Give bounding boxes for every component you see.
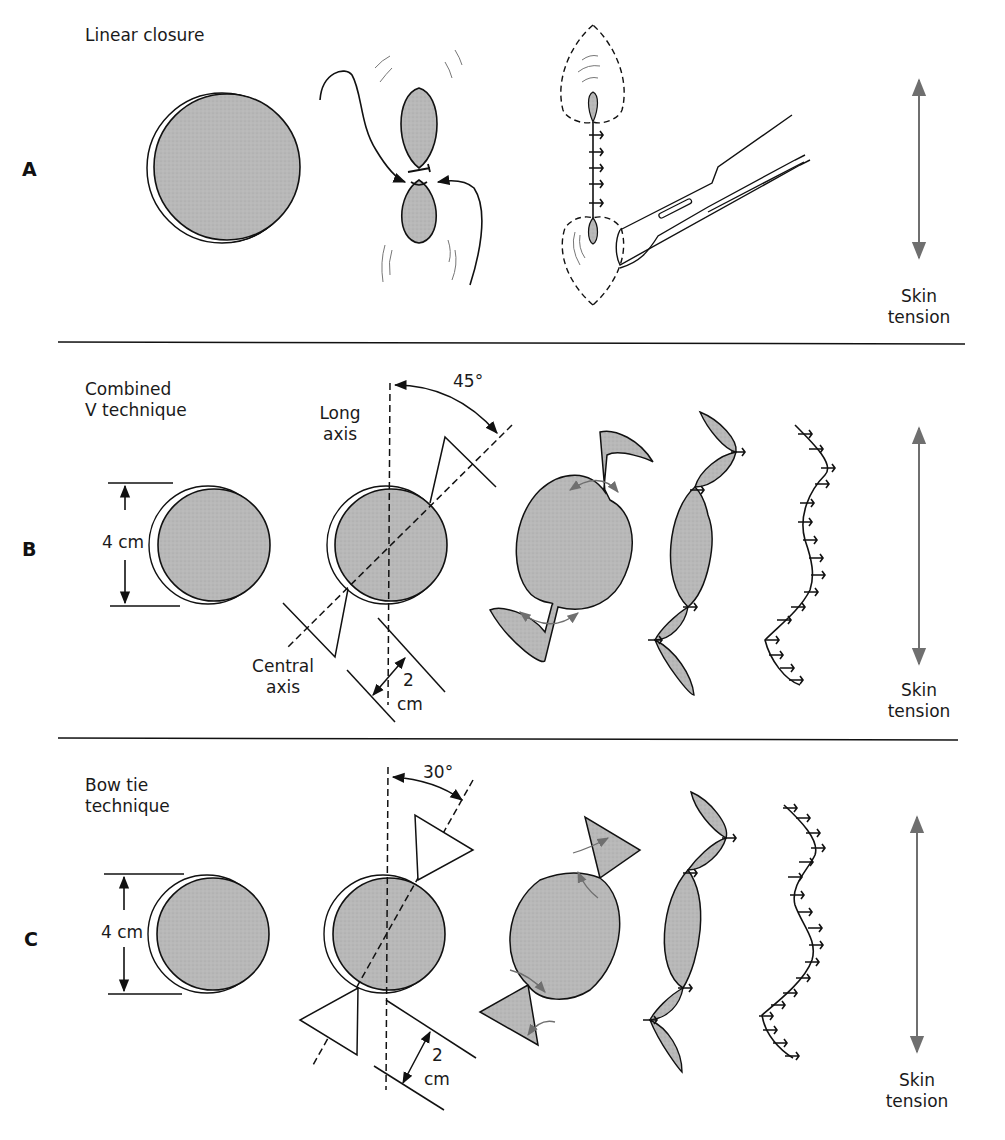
panel-c: [104, 767, 917, 1110]
panel-b-central-axis-label: Central axis: [248, 656, 318, 698]
v-closure-partial-b: [648, 412, 745, 695]
panel-c-offset-value: 2: [432, 1045, 443, 1066]
panel-a-tension-label: Skin tension: [884, 286, 954, 328]
purse-string-lobes: [320, 50, 482, 285]
v-closure-final-b: [765, 425, 835, 685]
surgical-closure-diagram: [0, 0, 1005, 1140]
panel-b-offset-value: 2: [403, 670, 414, 691]
panel-b-offset-unit: cm: [397, 694, 423, 715]
bowtie-closure-partial-c: [643, 792, 736, 1072]
panel-b-angle-label: 45°: [453, 371, 483, 392]
panel-a: [147, 25, 919, 305]
panel-b-title: Combined V technique: [85, 379, 187, 421]
panel-b-diameter-label: 4 cm: [102, 532, 144, 553]
bowtie-flaps-rotating-c: [480, 817, 640, 1045]
panel-c-angle-label: 30°: [423, 762, 453, 783]
linear-closure-sutured: [561, 25, 810, 305]
bowtie-design-c: [300, 767, 476, 1110]
v-flaps-rotating-b: [490, 431, 653, 661]
panel-c-offset-unit: cm: [424, 1069, 450, 1090]
divider-bc: [58, 738, 958, 740]
circular-defect-c: [148, 875, 269, 993]
panel-a-title: Linear closure: [85, 25, 204, 46]
divider-ab: [58, 342, 965, 344]
panel-c-letter: C: [24, 928, 38, 950]
panel-b-letter: B: [22, 538, 36, 560]
panel-b-long-axis-label: Long axis: [310, 403, 370, 445]
circular-defect-b: [149, 486, 270, 604]
circular-defect-a: [147, 93, 300, 243]
panel-c-title: Bow tie technique: [85, 775, 170, 817]
panel-c-tension-label: Skin tension: [882, 1070, 952, 1112]
panel-a-letter: A: [22, 158, 37, 180]
panel-b: [108, 383, 919, 722]
bowtie-closure-final-c: [759, 804, 825, 1060]
panel-c-diameter-label: 4 cm: [101, 922, 143, 943]
panel-b-tension-label: Skin tension: [884, 680, 954, 722]
